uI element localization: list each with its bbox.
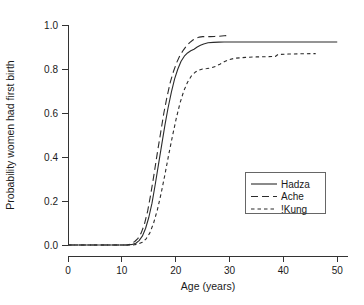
x-tick-label: 40 xyxy=(278,265,290,276)
x-tick-label: 0 xyxy=(65,265,71,276)
y-tick-label: 0.4 xyxy=(44,152,58,163)
chart-legend: HadzaAche!Kung xyxy=(246,173,326,215)
x-tick-label: 10 xyxy=(116,265,128,276)
series-line-ache xyxy=(68,35,230,245)
legend-label-ache: Ache xyxy=(281,191,304,202)
x-tick-label: 50 xyxy=(332,265,344,276)
x-tick-label: 20 xyxy=(170,265,182,276)
series-line-hadza xyxy=(68,42,337,245)
legend-label-hadza: Hadza xyxy=(281,179,310,190)
y-tick-label: 0.6 xyxy=(44,108,58,119)
line-chart: 0.00.20.40.60.81.0 01020304050 Age (year… xyxy=(0,0,364,305)
y-tick-label: 1.0 xyxy=(44,20,58,31)
y-tick-label: 0.0 xyxy=(44,240,58,251)
y-tick-label: 0.2 xyxy=(44,196,58,207)
x-axis-ticks xyxy=(68,256,337,262)
y-axis-ticks xyxy=(62,25,68,245)
y-axis-tick-labels: 0.00.20.40.60.81.0 xyxy=(44,20,58,251)
y-tick-label: 0.8 xyxy=(44,64,58,75)
y-axis-title: Probability women had first birth xyxy=(4,60,16,210)
x-tick-label: 30 xyxy=(224,265,236,276)
x-axis-tick-labels: 01020304050 xyxy=(65,265,343,276)
series-line-kung xyxy=(68,54,316,245)
legend-label-kung: !Kung xyxy=(281,204,307,215)
chart-figure: 0.00.20.40.60.81.0 01020304050 Age (year… xyxy=(0,0,364,305)
x-axis-title: Age (years) xyxy=(181,280,235,292)
